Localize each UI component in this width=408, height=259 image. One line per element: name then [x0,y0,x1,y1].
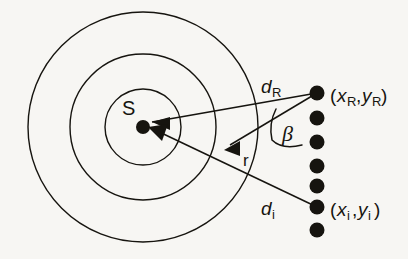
receiver-dot-2 [310,111,325,126]
receiver-dot-7 [310,223,325,238]
distance-i-subscript: i [272,207,275,222]
comma-reference: , [356,85,361,106]
figure-container: S r β d R d i ( x R , y R ) ( x i [0,0,408,259]
x-subscript-reference: R [347,94,356,109]
paren-close-i: ) [374,199,380,220]
receiver-dot-1 [310,86,325,101]
paren-close-reference: ) [381,85,387,106]
y-subscript-reference: R [372,94,381,109]
receiver-dot-5 [310,179,325,194]
wave-propagation-diagram: S r β d R d i ( x R , y R ) ( x i [0,0,408,259]
source-label: S [122,97,135,119]
beta-angle-label: β [281,121,293,146]
receiver-dot-3 [310,135,325,150]
receiver-dot-6 [310,200,325,215]
receiver-dot-4 [310,159,325,174]
y-subscript-i: i [368,208,371,223]
paren-open-i: ( [330,199,337,220]
source-point-dot [136,120,150,134]
distance-reference-subscript: R [272,85,281,100]
radius-vector-label: r [243,151,249,170]
comma-i: , [352,199,357,220]
paren-open-reference: ( [330,85,337,106]
x-subscript-i: i [347,208,350,223]
